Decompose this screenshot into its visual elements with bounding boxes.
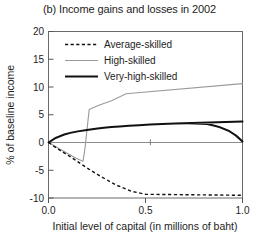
legend-label-average-skilled: Average-skilled <box>104 39 172 50</box>
legend-label-high-skilled: High-skilled <box>104 55 156 66</box>
y-label-10: 10 <box>33 82 45 93</box>
chart-legend: Average-skilled High-skilled Very-high-s… <box>65 39 177 82</box>
y-axis-tick-labels: 20 15 10 5 0 -5 -10 <box>30 26 45 204</box>
y-label-20: 20 <box>33 26 45 37</box>
x-axis-tick-labels: 0.0 0.5 1.0 <box>42 205 250 216</box>
y-axis-title: % of baseline income <box>4 65 16 165</box>
x-label-0point5: 0.5 <box>139 205 153 216</box>
y-label-0: 0 <box>38 137 44 148</box>
y-label-minus5: -5 <box>35 165 44 176</box>
y-label-minus10: -10 <box>30 193 45 204</box>
chart-plot-area: 20 15 10 5 0 -5 -10 % of baseline income… <box>0 0 259 235</box>
y-label-15: 15 <box>33 54 45 65</box>
y-label-5: 5 <box>38 109 44 120</box>
x-axis-title: Initial level of capital (in millions of… <box>52 220 237 232</box>
x-label-0: 0.0 <box>42 205 56 216</box>
legend-label-very-high-skilled: Very-high-skilled <box>104 71 177 82</box>
income-gains-losses-chart: (b) Income gains and losses in 2002 20 1… <box>0 0 259 235</box>
x-axis-ticks <box>49 198 243 203</box>
series-line-very-high-skilled <box>49 122 243 143</box>
series-line-average-skilled <box>49 143 243 196</box>
y-axis-ticks <box>49 32 54 199</box>
x-label-1: 1.0 <box>236 205 250 216</box>
